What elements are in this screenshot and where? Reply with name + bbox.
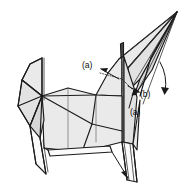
horn-base-shadow (121, 43, 124, 58)
label-a-upper: (a) (82, 60, 92, 70)
body-main-panel (42, 88, 122, 152)
origami-diagram-figure: (a) (b) (a) (0, 0, 184, 192)
diagram-canvas: (a) (b) (a) (0, 0, 184, 192)
label-a-lower: (a) (130, 107, 140, 117)
label-b: (b) (140, 89, 150, 99)
